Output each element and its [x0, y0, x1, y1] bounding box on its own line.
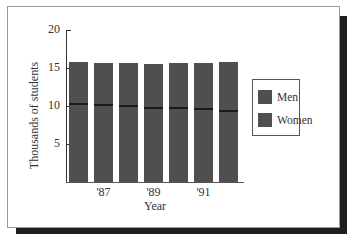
- y-tick-label: 20: [40, 22, 60, 37]
- bar-91: [194, 63, 213, 182]
- legend-label: Men: [277, 91, 298, 103]
- legend-label: Women: [277, 114, 312, 126]
- segment-divider: [69, 103, 88, 105]
- legend-item-men: Men: [258, 90, 298, 104]
- legend-swatch-icon: [258, 113, 272, 127]
- y-tick: [66, 30, 71, 31]
- segment-divider: [219, 110, 238, 112]
- bar-90: [169, 63, 188, 182]
- chart-plot-area: Thousands of students Year Men Women 201…: [0, 0, 351, 238]
- bar-87: [94, 63, 113, 182]
- bar-92: [219, 62, 238, 182]
- bar-88: [119, 63, 138, 182]
- bar-86: [69, 62, 88, 182]
- segment-divider: [169, 107, 188, 109]
- y-tick-label: 15: [40, 60, 60, 75]
- segment-divider: [194, 108, 213, 110]
- legend-item-women: Women: [258, 113, 312, 127]
- x-tick-label: '87: [89, 185, 119, 200]
- x-tick-label: '89: [139, 185, 169, 200]
- segment-divider: [119, 105, 138, 107]
- segment-divider: [94, 104, 113, 106]
- y-tick-label: 5: [40, 136, 60, 151]
- segment-divider: [144, 107, 163, 109]
- y-tick-label: 10: [40, 98, 60, 113]
- legend-swatch-icon: [258, 90, 272, 104]
- x-axis-line: [66, 182, 244, 183]
- legend: Men Women: [252, 79, 300, 136]
- bar-89: [144, 64, 163, 182]
- x-axis-title: Year: [130, 199, 180, 214]
- x-tick-label: '91: [189, 185, 219, 200]
